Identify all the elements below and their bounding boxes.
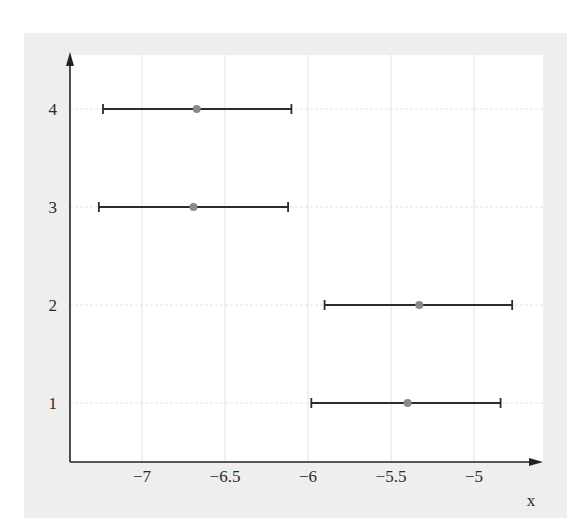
point-marker bbox=[404, 399, 412, 407]
point-marker bbox=[415, 301, 423, 309]
x-tick-label: −6 bbox=[299, 467, 317, 486]
point-marker bbox=[189, 203, 197, 211]
point-marker bbox=[193, 105, 201, 113]
x-tick-label: −6.5 bbox=[210, 467, 241, 486]
errorbar-chart: −7−6.5−6−5.5−5 1234 x bbox=[0, 0, 583, 531]
x-tick-label: −5 bbox=[465, 467, 483, 486]
y-tick-label: 4 bbox=[49, 100, 58, 119]
plot-area bbox=[70, 55, 543, 462]
x-axis-label: x bbox=[527, 491, 536, 510]
y-tick-label: 2 bbox=[49, 296, 58, 315]
x-tick-label: −5.5 bbox=[376, 467, 407, 486]
y-tick-label: 1 bbox=[49, 394, 58, 413]
y-tick-label: 3 bbox=[49, 198, 58, 217]
x-tick-label: −7 bbox=[133, 467, 152, 486]
